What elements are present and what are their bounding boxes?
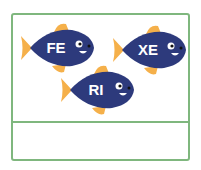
- answer-area[interactable]: [13, 123, 188, 159]
- fish-label: XE: [132, 40, 164, 60]
- fish-label: RI: [80, 80, 112, 100]
- fish-ri: RI: [58, 62, 138, 118]
- fish-label: FE: [40, 38, 72, 58]
